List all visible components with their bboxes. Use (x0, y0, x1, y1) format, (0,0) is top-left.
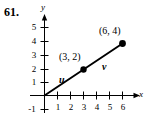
coordinate-plot: y x 5 4 3 2 1 -1 1 2 3 4 5 6 (3, 2) (6, … (0, 0, 146, 123)
y-tick-label-5: 5 (30, 23, 38, 32)
x-tick-label-1: 1 (54, 103, 62, 112)
x-tick-label-5: 5 (106, 103, 114, 112)
y-tick-label-2: 2 (30, 65, 38, 74)
x-tick-label-4: 4 (93, 103, 101, 112)
y-axis-arrowhead (42, 14, 47, 21)
y-axis-label: y (41, 3, 45, 12)
point-label-3-2: (3, 2) (59, 52, 81, 62)
y-tick-label-4: 4 (30, 37, 38, 46)
y-tick-label-1: 1 (30, 78, 38, 87)
x-tick-label-2: 2 (67, 103, 75, 112)
point-3-2-dot (80, 66, 86, 72)
exercise-figure: 61. (0, 0, 146, 123)
point-label-6-4: (6, 4) (99, 26, 121, 36)
y-tick-label-negative-1: -1 (25, 105, 39, 114)
point-6-4-dot (119, 40, 126, 47)
x-tick-label-6: 6 (119, 103, 127, 112)
vector-label-v: v (102, 62, 106, 72)
x-axis-label: x (139, 90, 143, 99)
x-tick-label-3: 3 (80, 103, 88, 112)
y-tick-label-3: 3 (30, 51, 38, 60)
vector-label-u: u (59, 75, 65, 85)
